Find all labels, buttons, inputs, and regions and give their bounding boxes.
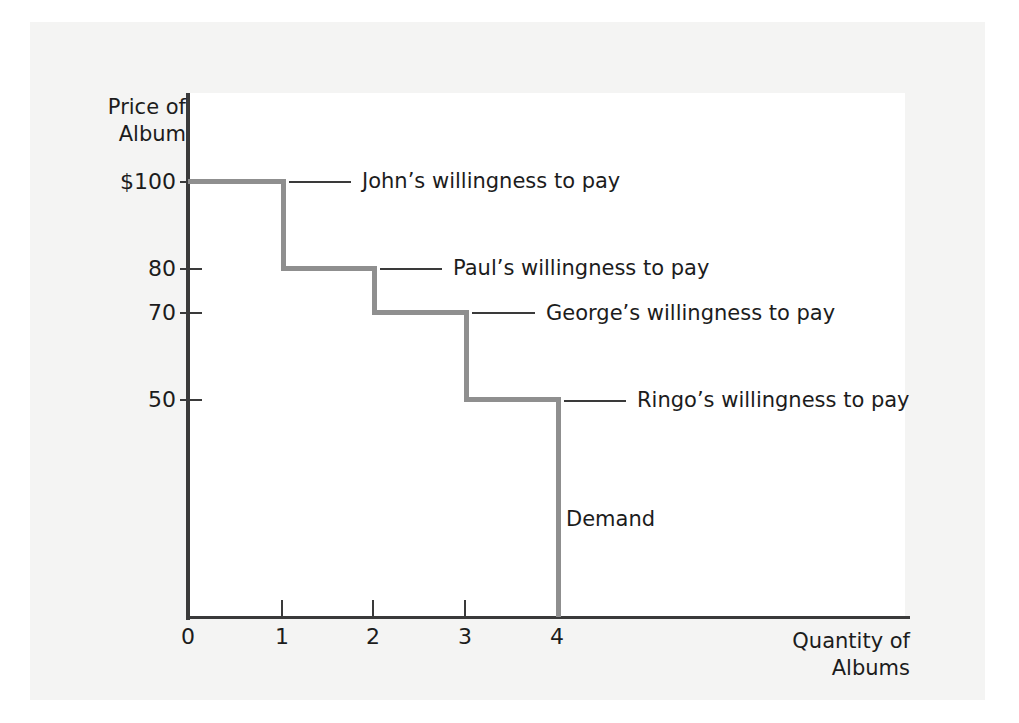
y-axis-title-line-2: Album (60, 121, 186, 148)
annotation-john: John’s willingness to pay (362, 171, 620, 192)
leader-line-ringo (564, 400, 626, 402)
y-axis-line (186, 93, 190, 620)
x-tick-label-1: 1 (262, 626, 302, 648)
x-tick-mark-1 (281, 600, 283, 618)
y-tick-label-50: 50 (148, 389, 176, 411)
y-tick-label-100: $100 (120, 171, 176, 193)
y-tick-mark-70 (180, 312, 202, 314)
x-axis-title: Quantity of Albums (690, 628, 910, 682)
x-tick-label-3: 3 (445, 626, 485, 648)
demand-drop-q4 (556, 397, 561, 617)
y-tick-mark-80 (180, 268, 202, 270)
x-tick-label-2: 2 (353, 626, 393, 648)
leader-line-paul (380, 268, 442, 270)
y-axis-title: Price of Album (60, 94, 186, 148)
x-axis-title-line-2: Albums (690, 655, 910, 682)
y-tick-mark-50 (180, 399, 202, 401)
x-tick-label-0: 0 (168, 626, 208, 648)
demand-step-paul (281, 266, 377, 271)
demand-step-george (372, 310, 469, 315)
x-axis-line (186, 616, 910, 619)
y-tick-label-80: 80 (148, 258, 176, 280)
x-tick-mark-2 (372, 600, 374, 618)
demand-curve-label: Demand (566, 509, 655, 530)
y-tick-label-70: 70 (148, 302, 176, 324)
annotation-ringo: Ringo’s willingness to pay (637, 390, 910, 411)
chart-page: $100 80 70 50 0 1 2 3 4 Price of Album Q… (0, 0, 1019, 723)
demand-drop-q1 (281, 179, 286, 271)
demand-drop-q2 (372, 266, 377, 315)
annotation-paul: Paul’s willingness to pay (453, 258, 709, 279)
x-tick-mark-3 (464, 600, 466, 618)
leader-line-george (472, 312, 535, 314)
demand-drop-q3 (464, 310, 469, 402)
demand-step-john (188, 179, 286, 184)
x-axis-title-line-1: Quantity of (690, 628, 910, 655)
x-tick-label-4: 4 (537, 626, 577, 648)
leader-line-john (289, 181, 351, 183)
y-axis-title-line-1: Price of (60, 94, 186, 121)
annotation-george: George’s willingness to pay (546, 303, 835, 324)
demand-step-ringo (464, 397, 561, 402)
